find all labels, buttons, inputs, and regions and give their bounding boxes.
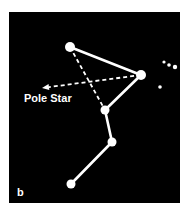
- pointer-line: [49, 75, 141, 87]
- constellation-diagram: [0, 0, 190, 218]
- star-right: [136, 70, 146, 80]
- pole-star-label: Pole Star: [24, 92, 72, 104]
- small-stars-cluster: [158, 60, 177, 88]
- panel-label: b: [17, 186, 24, 198]
- star-bottom: [67, 180, 76, 189]
- constellation-lines: [70, 47, 141, 184]
- star-top: [65, 42, 75, 52]
- star-middle: [101, 106, 110, 115]
- star-lower: [108, 138, 117, 147]
- dashed-line: [70, 47, 105, 110]
- solid-line: [70, 47, 141, 75]
- solid-line: [71, 142, 112, 184]
- small-star: [167, 63, 171, 67]
- small-star: [173, 65, 177, 69]
- small-star: [162, 60, 165, 63]
- arrowhead-icon: [42, 84, 49, 90]
- solid-line: [105, 75, 141, 110]
- solid-line: [105, 110, 112, 142]
- small-star: [158, 85, 162, 89]
